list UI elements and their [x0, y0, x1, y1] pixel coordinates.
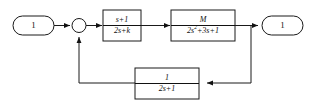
output-terminal-label: 1	[262, 16, 303, 35]
block-diagram: 1 1 s+1 2s+k M 2s2+3s+1 1 2s+1	[0, 0, 309, 108]
controller-denominator: 2s+k	[112, 26, 132, 35]
plant-transfer-function: M 2s2+3s+1	[171, 10, 235, 41]
feedback-numerator: 1	[163, 74, 171, 83]
summing-junction-shape	[72, 19, 86, 33]
plant-denominator: 2s2+3s+1	[185, 26, 221, 35]
plant-denominator-post: +3s+1	[197, 26, 219, 35]
controller-numerator: s+1	[114, 16, 131, 25]
controller-transfer-function: s+1 2s+k	[103, 10, 141, 41]
wire-feedback-to-sum	[79, 37, 135, 83]
input-terminal-label: 1	[13, 16, 54, 35]
feedback-transfer-function: 1 2s+1	[135, 68, 199, 99]
plant-numerator: M	[198, 16, 209, 25]
feedback-denominator: 2s+1	[157, 84, 178, 93]
